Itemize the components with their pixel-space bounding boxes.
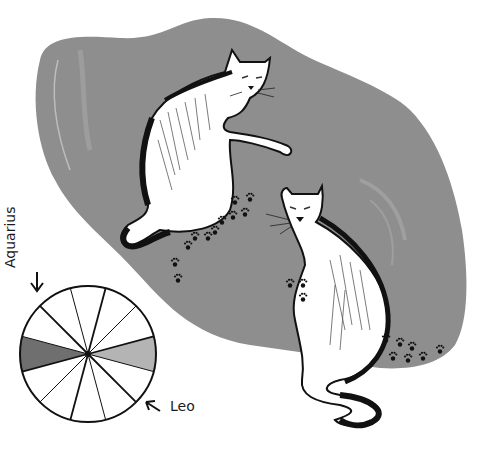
zodiac-wheel [20, 286, 156, 422]
wheel-hub [85, 351, 91, 357]
illustration [0, 0, 496, 449]
segment-aquarius [20, 336, 88, 371]
segment-leo [88, 336, 156, 371]
arrow-down-icon [31, 272, 43, 291]
arrow-up-left-icon [146, 401, 160, 411]
wheel-spoke [70, 354, 88, 420]
wheel-spoke [88, 288, 106, 354]
leo-label: Leo [170, 398, 195, 414]
aquarius-label: Aquarius [2, 207, 18, 268]
